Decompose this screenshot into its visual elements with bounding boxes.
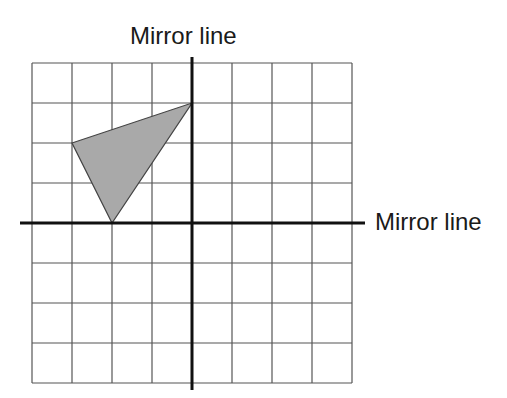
reflection-grid <box>0 0 507 398</box>
shaded-triangle <box>72 103 192 223</box>
